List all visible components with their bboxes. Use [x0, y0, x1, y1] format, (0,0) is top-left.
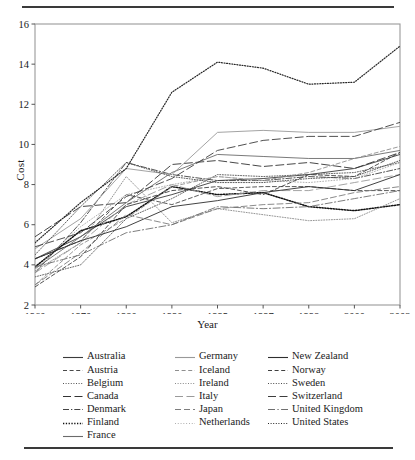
- series-line-italy: [35, 175, 400, 273]
- x-axis-tick-label: 1997: [253, 311, 274, 314]
- y-axis-tick-label: 16: [19, 19, 30, 30]
- series-line-finland: [35, 187, 400, 267]
- legend-line-swatch-icon: [174, 391, 196, 401]
- legend-item[interactable]: Switzerland: [267, 390, 407, 403]
- legend-item-label: Austria: [87, 365, 118, 376]
- chart-legend: AustraliaAustriaBelgiumCanadaDenmarkFinl…: [0, 350, 415, 442]
- y-axis-tick-label: 12: [19, 99, 30, 110]
- legend-line-swatch-icon: [267, 391, 289, 401]
- legend-line-swatch-icon: [267, 418, 289, 428]
- legend-item[interactable]: United States: [267, 416, 407, 429]
- legend-line-swatch-icon: [62, 378, 84, 388]
- legend-item-label: Belgium: [87, 378, 123, 389]
- legend-line-swatch-icon: [267, 404, 289, 414]
- legend-item-label: Italy: [199, 391, 218, 402]
- legend-column-1: AustraliaAustriaBelgiumCanadaDenmarkFinl…: [62, 350, 177, 442]
- legend-item[interactable]: Australia: [62, 350, 177, 363]
- legend-item-label: United States: [292, 417, 348, 428]
- legend-line-swatch-icon: [174, 404, 196, 414]
- legend-item[interactable]: Japan: [174, 403, 274, 416]
- bottom-divider-rule: [24, 447, 393, 449]
- top-divider-rule: [22, 6, 394, 8]
- x-axis-tick-label: 1970: [70, 311, 91, 314]
- legend-item-label: United Kingdom: [292, 404, 363, 415]
- x-axis-tick-label: 2002: [390, 311, 411, 314]
- legend-item[interactable]: France: [62, 429, 177, 442]
- line-chart-figure: 2468101214161960197019801990199519971998…: [0, 14, 415, 314]
- legend-item-label: Netherlands: [199, 417, 250, 428]
- legend-item-label: Germany: [199, 351, 238, 362]
- figure-panel: 2468101214161960197019801990199519971998…: [0, 0, 415, 460]
- plot-frame: [35, 24, 400, 305]
- x-axis-label: Year: [0, 318, 415, 330]
- legend-item-label: Finland: [87, 417, 119, 428]
- legend-item-label: Australia: [87, 351, 126, 362]
- legend-item[interactable]: New Zealand: [267, 350, 407, 363]
- legend-item-label: New Zealand: [292, 351, 348, 362]
- legend-column-3: New ZealandNorwaySwedenSwitzerlandUnited…: [267, 350, 407, 429]
- y-axis-tick-label: 2: [24, 300, 29, 311]
- x-axis-tick-label: 2000: [344, 311, 365, 314]
- legend-line-swatch-icon: [62, 365, 84, 375]
- legend-item-label: Denmark: [87, 404, 126, 415]
- legend-item[interactable]: Norway: [267, 363, 407, 376]
- legend-column-2: GermanyIcelandIrelandItalyJapanNetherlan…: [174, 350, 274, 429]
- chart-canvas: 2468101214161960197019801990199519971998…: [0, 14, 415, 314]
- x-axis-tick-label: 1995: [207, 311, 228, 314]
- y-axis-tick-label: 4: [24, 259, 30, 270]
- legend-item[interactable]: Ireland: [174, 376, 274, 389]
- x-axis-tick-label: 1990: [161, 311, 182, 314]
- y-axis-label: Cost: [14, 140, 26, 200]
- legend-line-swatch-icon: [267, 365, 289, 375]
- legend-item-label: Canada: [87, 391, 119, 402]
- legend-item[interactable]: Germany: [174, 350, 274, 363]
- legend-line-swatch-icon: [174, 352, 196, 362]
- legend-item[interactable]: Belgium: [62, 376, 177, 389]
- legend-line-swatch-icon: [62, 418, 84, 428]
- legend-line-swatch-icon: [267, 378, 289, 388]
- legend-item[interactable]: United Kingdom: [267, 403, 407, 416]
- legend-item-label: Norway: [292, 365, 326, 376]
- legend-line-swatch-icon: [62, 431, 84, 441]
- y-axis-tick-label: 14: [19, 59, 30, 70]
- legend-line-swatch-icon: [174, 378, 196, 388]
- legend-item-label: Switzerland: [292, 391, 342, 402]
- legend-item-label: Japan: [199, 404, 223, 415]
- legend-item[interactable]: Sweden: [267, 376, 407, 389]
- legend-line-swatch-icon: [174, 418, 196, 428]
- series-line-united-states: [35, 46, 400, 243]
- legend-line-swatch-icon: [267, 352, 289, 362]
- legend-line-swatch-icon: [174, 365, 196, 375]
- legend-item[interactable]: Italy: [174, 390, 274, 403]
- legend-line-swatch-icon: [62, 404, 84, 414]
- legend-line-swatch-icon: [62, 391, 84, 401]
- x-axis-tick-label: 1998: [298, 311, 319, 314]
- legend-item-label: Sweden: [292, 378, 325, 389]
- series-line-ireland: [35, 177, 400, 271]
- legend-item-label: Iceland: [199, 365, 230, 376]
- legend-item[interactable]: Canada: [62, 390, 177, 403]
- x-axis-tick-label: 1960: [25, 311, 46, 314]
- legend-item-label: Ireland: [199, 378, 229, 389]
- legend-item[interactable]: Iceland: [174, 363, 274, 376]
- legend-item[interactable]: Finland: [62, 416, 177, 429]
- series-group: [35, 46, 400, 287]
- y-axis-tick-label: 6: [24, 219, 29, 230]
- legend-item[interactable]: Netherlands: [174, 416, 274, 429]
- legend-item-label: France: [87, 430, 116, 441]
- x-axis-tick-label: 1980: [116, 311, 137, 314]
- series-line-japan: [35, 187, 400, 285]
- legend-item[interactable]: Austria: [62, 363, 177, 376]
- legend-item[interactable]: Denmark: [62, 403, 177, 416]
- legend-line-swatch-icon: [62, 352, 84, 362]
